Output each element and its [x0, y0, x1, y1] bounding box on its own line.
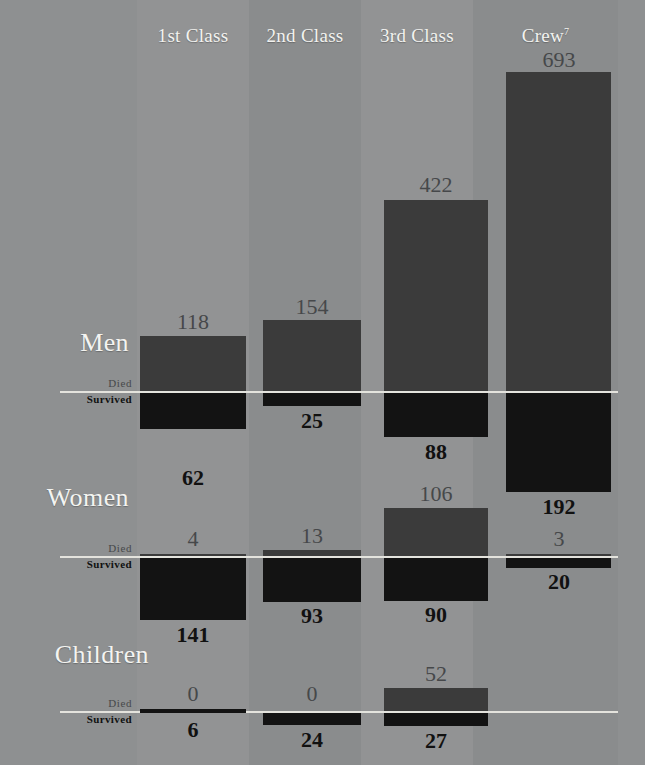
row-label-children: Children [0, 640, 149, 670]
column-header-1st-class: 1st Class [137, 25, 249, 47]
bar-died-women-crew [506, 554, 611, 556]
bar-survived-children-2nd-class [263, 713, 361, 725]
value-survived-women-2nd-class: 93 [258, 603, 366, 629]
value-survived-women-1st-class: 141 [140, 622, 246, 648]
bar-died-women-2nd-class [263, 550, 361, 556]
bar-died-men-1st-class [140, 336, 246, 391]
value-survived-women-crew: 20 [503, 569, 615, 595]
value-survived-children-3rd-class: 27 [381, 728, 491, 754]
value-died-children-2nd-class: 0 [258, 681, 366, 707]
column-header-crew: Crew7 [473, 25, 618, 47]
axis-label-died-women: Died [40, 542, 132, 554]
value-died-men-3rd-class: 422 [381, 172, 491, 198]
row-label-women: Women [0, 483, 129, 513]
value-died-women-3rd-class: 106 [381, 481, 491, 507]
value-survived-children-1st-class: 6 [140, 717, 246, 743]
axis-label-died-men: Died [40, 377, 132, 389]
bar-survived-men-crew [506, 393, 611, 492]
row-label-men: Men [0, 328, 129, 358]
bar-survived-women-2nd-class [263, 558, 361, 602]
bar-died-men-2nd-class [263, 320, 361, 391]
value-survived-men-crew: 192 [503, 494, 615, 520]
value-died-children-1st-class: 0 [140, 681, 246, 707]
value-survived-men-1st-class: 62 [140, 465, 246, 491]
column-header-3rd-class-label: 3rd Class [380, 25, 454, 46]
value-died-women-crew: 3 [503, 526, 615, 552]
axis-label-survived-women: Survived [40, 558, 132, 570]
bar-survived-children-1st-class [140, 709, 246, 713]
value-died-men-crew: 693 [503, 47, 615, 73]
titanic-survival-chart: 1st Class 2nd Class 3rd Class Crew7 Men … [0, 0, 645, 765]
value-survived-women-3rd-class: 90 [381, 602, 491, 628]
value-died-men-2nd-class: 154 [258, 294, 366, 320]
axis-label-survived-men: Survived [40, 393, 132, 405]
bar-survived-children-3rd-class [384, 713, 488, 726]
bar-survived-men-2nd-class [263, 393, 361, 406]
column-header-2nd-class: 2nd Class [249, 25, 361, 47]
value-died-children-3rd-class: 52 [381, 661, 491, 687]
column-header-crew-label: Crew [522, 25, 564, 46]
axis-label-survived-children: Survived [40, 713, 132, 725]
value-survived-men-3rd-class: 88 [381, 439, 491, 465]
column-header-1st-class-label: 1st Class [158, 25, 229, 46]
bar-survived-women-1st-class [140, 558, 246, 620]
bar-survived-men-3rd-class [384, 393, 488, 437]
axis-label-died-children: Died [40, 697, 132, 709]
bar-died-women-3rd-class [384, 508, 488, 556]
value-survived-men-2nd-class: 25 [258, 408, 366, 434]
column-header-2nd-class-label: 2nd Class [266, 25, 343, 46]
bar-died-men-crew [506, 72, 611, 391]
column-header-crew-footnote-marker: 7 [564, 26, 569, 37]
value-died-women-1st-class: 4 [140, 526, 246, 552]
bar-died-children-3rd-class [384, 688, 488, 711]
bar-died-women-1st-class [140, 554, 246, 556]
value-died-men-1st-class: 118 [140, 309, 246, 335]
value-died-women-2nd-class: 13 [258, 523, 366, 549]
bar-died-men-3rd-class [384, 200, 488, 391]
bar-survived-women-3rd-class [384, 558, 488, 601]
value-survived-children-2nd-class: 24 [258, 727, 366, 753]
bar-survived-men-1st-class [140, 393, 246, 429]
bar-survived-women-crew [506, 558, 611, 568]
column-header-3rd-class: 3rd Class [361, 25, 473, 47]
